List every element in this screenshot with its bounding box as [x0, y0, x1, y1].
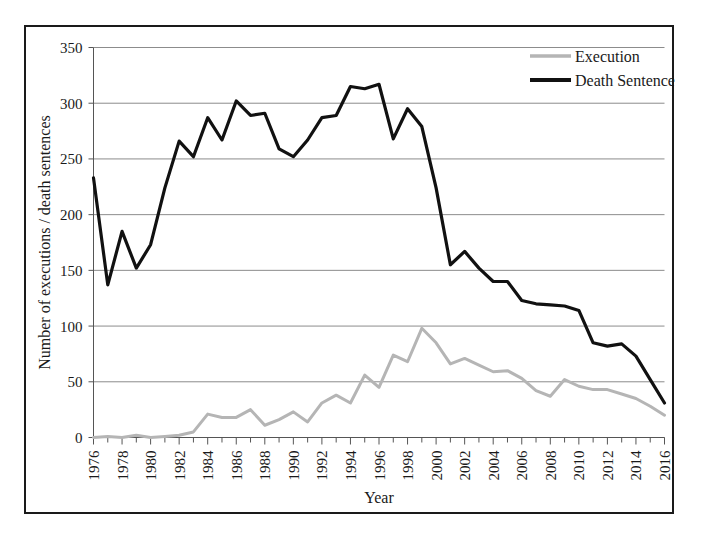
x-tick-label: 1994	[343, 450, 359, 481]
x-axis-group: 1976197819801982198419861988199019921994…	[86, 438, 673, 481]
x-tick-label: 2006	[514, 450, 530, 481]
x-tick-label: 1982	[172, 451, 188, 481]
x-tick-label: 2004	[486, 450, 502, 481]
x-tick-label: 1978	[115, 451, 131, 481]
series-line-execution	[94, 328, 665, 437]
x-tick-label: 2002	[457, 451, 473, 481]
x-tick-label: 1990	[286, 451, 302, 481]
x-tick-label: 2010	[571, 451, 587, 481]
y-tick-label: 200	[60, 207, 83, 223]
legend-group: ExecutionDeath Sentence	[530, 48, 675, 89]
x-tick-label: 1998	[400, 451, 416, 481]
y-axis-group: 050100150200250300350	[60, 40, 94, 446]
figure-container: 050100150200250300350 197619781980198219…	[0, 0, 714, 537]
legend-label-execution: Execution	[575, 48, 640, 65]
y-axis-title: Number of executions / death sentences	[36, 115, 53, 370]
x-tick-label: 1986	[229, 450, 245, 481]
x-tick-label: 1984	[200, 450, 216, 481]
y-tick-label: 50	[68, 374, 83, 390]
y-tick-label: 150	[60, 263, 83, 279]
series-line-death-sentence	[94, 84, 665, 403]
y-tick-label: 250	[60, 151, 83, 167]
x-tick-label: 1980	[143, 451, 159, 481]
legend-label-death-sentence: Death Sentence	[575, 72, 675, 89]
x-tick-label: 1996	[372, 450, 388, 481]
x-axis-title: Year	[364, 489, 394, 506]
y-tick-label: 100	[60, 319, 83, 335]
x-tick-label: 2008	[543, 451, 559, 481]
gridlines-group	[94, 48, 665, 438]
line-chart: 050100150200250300350 197619781980198219…	[0, 0, 714, 537]
y-tick-label: 300	[60, 96, 83, 112]
x-tick-label: 2014	[628, 450, 644, 481]
series-group	[94, 84, 665, 437]
y-tick-label: 350	[60, 40, 83, 56]
x-tick-label: 2016	[657, 450, 673, 481]
x-tick-label: 1992	[314, 451, 330, 481]
x-tick-label: 1988	[257, 451, 273, 481]
x-tick-label: 1976	[86, 450, 102, 481]
x-tick-label: 2000	[429, 451, 445, 481]
x-tick-label: 2012	[600, 451, 616, 481]
y-tick-label: 0	[75, 430, 83, 446]
